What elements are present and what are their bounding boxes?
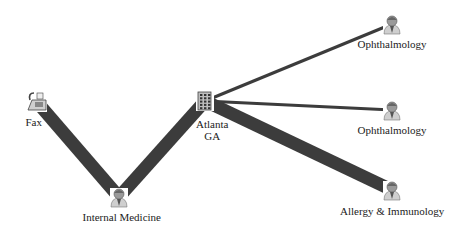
edge-atlanta-ophthalmology_1 xyxy=(205,24,392,101)
node-label-ophthalmology-2: Ophthalmology xyxy=(358,124,427,136)
physician-icon xyxy=(383,15,401,35)
edge-atlanta-allergy_immunology xyxy=(205,101,392,190)
fax-icon xyxy=(27,92,47,112)
physician-icon xyxy=(110,188,128,208)
edge-fax-internal_medicine xyxy=(37,102,119,197)
node-label-line: Atlanta xyxy=(196,118,228,130)
physician-icon xyxy=(383,101,401,121)
building-icon xyxy=(196,91,214,111)
network-diagram xyxy=(0,0,464,234)
node-label-allergy-immunology: Allergy & Immunology xyxy=(340,205,444,217)
node-label-fax: Fax xyxy=(26,116,43,128)
edge-internal_medicine-atlanta xyxy=(119,101,205,197)
node-label-internal-medicine: Internal Medicine xyxy=(83,211,162,223)
physician-icon xyxy=(383,181,401,201)
node-label-line: GA xyxy=(196,130,228,142)
node-label-ophthalmology-1: Ophthalmology xyxy=(358,38,427,50)
node-label-atlanta: AtlantaGA xyxy=(196,118,228,142)
